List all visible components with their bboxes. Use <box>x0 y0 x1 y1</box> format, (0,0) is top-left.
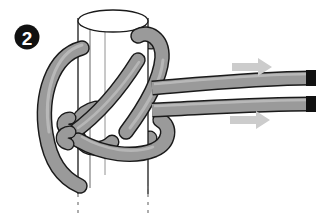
step-badge-label: 2 <box>22 28 33 49</box>
rope-end-lower <box>306 96 316 112</box>
step-badge: 2 <box>15 25 40 50</box>
rope-knot-bights <box>62 118 70 144</box>
rope-end-upper <box>306 70 316 86</box>
knot-illustration: 2 <box>0 0 316 224</box>
knot-diagram-page: 2 <box>0 0 316 224</box>
